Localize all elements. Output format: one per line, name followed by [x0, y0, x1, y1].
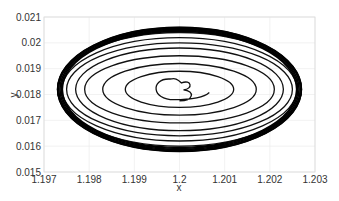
phase-plot: 1.1971.1981.1991.21.2011.2021.203 0.0150… [0, 0, 339, 201]
y-axis-label: y [8, 93, 19, 98]
x-tick-label: 1.203 [302, 174, 327, 185]
y-tick-label: 0.017 [16, 115, 41, 126]
trajectory-start-curl [156, 79, 209, 101]
y-tick-label: 0.015 [16, 167, 41, 178]
y-tick-label: 0.016 [16, 141, 41, 152]
x-tick-label: 1.199 [122, 174, 147, 185]
y-tick-label: 0.02 [22, 37, 42, 48]
y-tick-label: 0.019 [16, 63, 41, 74]
y-tick-labels: 0.0150.0160.0170.0180.0190.020.021 [16, 12, 41, 178]
y-tick-label: 0.018 [16, 89, 41, 100]
x-axis-label: x [177, 182, 182, 193]
y-tick-label: 0.021 [16, 12, 41, 23]
x-tick-label: 1.202 [257, 174, 282, 185]
x-tick-label: 1.201 [212, 174, 237, 185]
x-tick-label: 1.198 [77, 174, 102, 185]
